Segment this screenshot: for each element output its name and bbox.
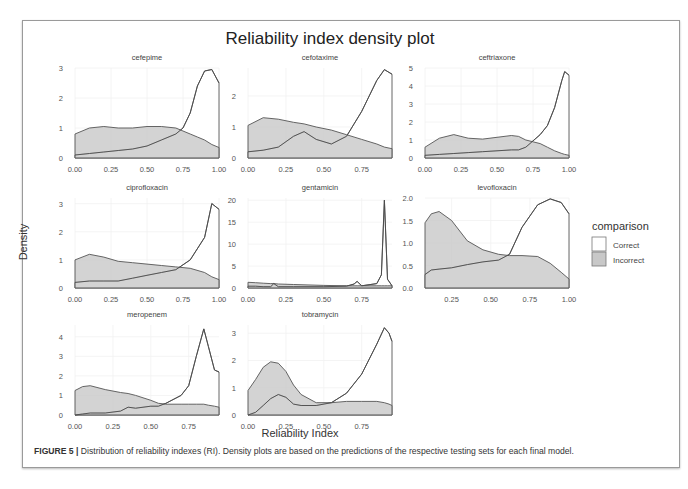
facet-gentamicin: gentamicin051015200.000.250.500.75 — [228, 183, 392, 304]
x-tick-label: 0.00 — [241, 422, 256, 431]
x-tick-label: 0.75 — [354, 422, 369, 431]
y-tick-label: 0.5 — [403, 262, 413, 271]
x-tick-label: 0.75 — [354, 165, 369, 174]
density-correct-line — [248, 200, 392, 287]
x-tick-label: 0.50 — [140, 165, 155, 174]
x-tick-label: 0.50 — [490, 165, 505, 174]
y-tick-label: 0 — [232, 284, 236, 293]
facet-meropenem: meropenem012340.000.250.500.75 — [59, 310, 219, 431]
x-tick-label: 0.25 — [104, 165, 119, 174]
x-tick-label: 0.00 — [68, 165, 83, 174]
x-tick-label: 0.00 — [68, 295, 83, 304]
facet-title: cefepime — [132, 53, 162, 62]
legend-label-incorrect: Incorrect — [613, 256, 645, 265]
figure-caption: FIGURE 5 | Distribution of reliability i… — [34, 446, 574, 456]
x-tick-label: 0.00 — [68, 422, 83, 431]
y-tick-label: 1 — [59, 391, 63, 400]
x-tick-label: 0.75 — [176, 165, 191, 174]
y-tick-label: 10 — [228, 240, 236, 249]
x-tick-label: 0.25 — [279, 165, 294, 174]
facet-title: gentamicin — [302, 183, 338, 192]
x-tick-label: 0.25 — [444, 295, 459, 304]
y-tick-label: 4 — [409, 82, 413, 91]
caption-text: Distribution of reliability indexes (RI)… — [78, 446, 573, 456]
facet-panels: cefepime01230.000.250.500.751.00cefotaxi… — [59, 53, 576, 431]
y-tick-label: 3 — [59, 64, 63, 73]
legend-title: comparison — [592, 220, 649, 232]
facet-title: meropenem — [127, 310, 167, 319]
y-tick-label: 3 — [59, 200, 63, 209]
y-tick-label: 0 — [232, 154, 236, 163]
y-tick-label: 1.5 — [403, 217, 413, 226]
y-tick-label: 3 — [232, 329, 236, 338]
y-tick-label: 0 — [232, 411, 236, 420]
x-tick-label: 0.50 — [143, 422, 158, 431]
y-tick-label: 1 — [59, 256, 63, 265]
x-tick-label: 0.25 — [454, 165, 469, 174]
x-tick-label: 1.00 — [212, 295, 227, 304]
density-plot-figure: Reliability index density plot cefepime0… — [0, 0, 688, 489]
facet-title: levofloxacin — [477, 183, 516, 192]
x-tick-label: 0.25 — [279, 295, 294, 304]
legend-label-correct: Correct — [613, 241, 640, 250]
y-tick-label: 1 — [232, 123, 236, 132]
y-tick-label: 5 — [409, 64, 413, 73]
y-tick-label: 0.0 — [403, 284, 413, 293]
y-tick-label: 2 — [59, 94, 63, 103]
y-tick-label: 2 — [232, 356, 236, 365]
y-tick-label: 20 — [228, 196, 236, 205]
facet-levofloxacin: levofloxacin0.00.51.01.52.00.250.500.751… — [403, 183, 577, 304]
legend-key-correct — [592, 237, 606, 251]
y-tick-label: 3 — [409, 100, 413, 109]
facet-title: ciprofloxacin — [126, 183, 168, 192]
x-tick-label: 0.00 — [241, 295, 256, 304]
x-axis-label: Reliability Index — [261, 427, 339, 439]
y-tick-label: 1.0 — [403, 239, 413, 248]
y-tick-label: 15 — [228, 218, 236, 227]
caption-label: FIGURE 5 | — [34, 446, 78, 456]
y-tick-label: 0 — [59, 411, 63, 420]
facet-tobramycin: tobramycin01230.000.250.500.75 — [232, 310, 392, 431]
y-tick-label: 1 — [232, 384, 236, 393]
x-tick-label: 0.75 — [181, 422, 196, 431]
x-tick-label: 0.00 — [418, 165, 433, 174]
facet-cefotaxime: cefotaxime0120.000.250.500.75 — [232, 53, 392, 174]
x-tick-label: 0.75 — [523, 295, 538, 304]
facet-ceftriaxone: ceftriaxone0123450.000.250.500.751.00 — [409, 53, 576, 174]
x-tick-label: 0.50 — [483, 295, 498, 304]
x-tick-label: 0.75 — [526, 165, 541, 174]
x-tick-label: 0.75 — [354, 295, 369, 304]
y-tick-label: 2 — [59, 228, 63, 237]
legend: comparison Correct Incorrect — [592, 220, 649, 266]
y-tick-label: 2 — [232, 92, 236, 101]
x-tick-label: 0.25 — [106, 422, 121, 431]
y-tick-label: 2 — [409, 118, 413, 127]
x-tick-label: 1.00 — [562, 165, 577, 174]
legend-key-incorrect — [592, 252, 606, 266]
y-tick-label: 5 — [232, 262, 236, 271]
x-tick-label: 0.50 — [316, 295, 331, 304]
y-tick-label: 1 — [59, 124, 63, 133]
facet-title: tobramycin — [302, 310, 339, 319]
y-tick-label: 3 — [59, 352, 63, 361]
x-tick-label: 0.25 — [104, 295, 119, 304]
y-tick-label: 0 — [409, 154, 413, 163]
y-tick-label: 4 — [59, 333, 63, 342]
facet-title: ceftriaxone — [479, 53, 516, 62]
facet-cefepime: cefepime01230.000.250.500.751.00 — [59, 53, 226, 174]
figure-title: Reliability index density plot — [226, 29, 435, 48]
x-tick-label: 1.00 — [212, 165, 227, 174]
x-tick-label: 1.00 — [562, 295, 577, 304]
x-tick-label: 0.00 — [241, 165, 256, 174]
y-tick-label: 2 — [59, 372, 63, 381]
x-tick-label: 0.50 — [316, 165, 331, 174]
y-tick-label: 0 — [59, 284, 63, 293]
facet-title: cefotaxime — [302, 53, 338, 62]
y-axis-label: Density — [17, 223, 29, 260]
y-tick-label: 0 — [59, 154, 63, 163]
y-tick-label: 1 — [409, 136, 413, 145]
x-tick-label: 0.75 — [176, 295, 191, 304]
y-tick-label: 2.0 — [403, 194, 413, 203]
facet-ciprofloxacin: ciprofloxacin01230.000.250.500.751.00 — [59, 183, 226, 304]
x-tick-label: 0.50 — [140, 295, 155, 304]
